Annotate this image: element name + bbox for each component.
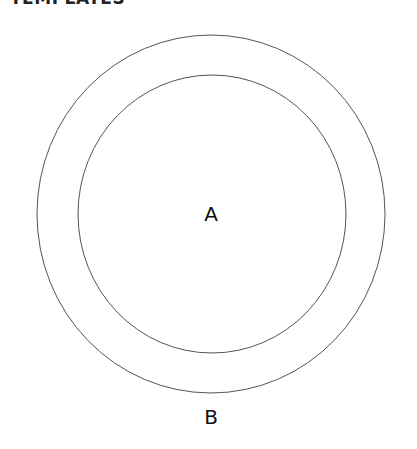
label-a: A	[204, 202, 218, 226]
label-b: B	[204, 405, 218, 429]
